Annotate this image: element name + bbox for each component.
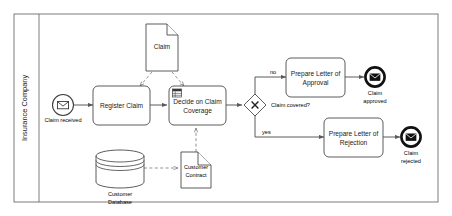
envelope-icon — [370, 74, 380, 81]
data-object-claim-label: Claim — [154, 43, 170, 50]
flow-label-yes: yes — [262, 129, 271, 135]
task-prepare-approval-label-line1: Prepare Letter of — [291, 70, 341, 78]
end-event-rejected-label-line2: rejected — [401, 158, 421, 164]
data-object-contract-label-line1: Customer — [184, 164, 208, 170]
task-register-claim-label: Register Claim — [100, 102, 144, 110]
task-decide-coverage-label-line2: Coverage — [183, 107, 212, 115]
task-prepare-approval-box — [286, 58, 345, 97]
end-event-claim-rejected[interactable] — [401, 127, 420, 146]
data-store-customer-database[interactable] — [96, 150, 144, 188]
task-prepare-rejection-label-line2: Rejection — [340, 139, 368, 147]
task-prepare-approval-label-line2: Approval — [302, 79, 329, 87]
bpmn-diagram-canvas: Insurance Company no yes Claim received … — [0, 0, 452, 216]
pool-label: Insurance Company — [20, 75, 29, 141]
end-event-approved-label-line2: approved — [363, 98, 386, 104]
task-prepare-rejection-label-line1: Prepare Letter of — [329, 130, 379, 138]
business-rule-icon — [173, 89, 182, 97]
task-prepare-approval[interactable]: Prepare Letter of Approval — [286, 58, 345, 97]
start-event-circle — [53, 95, 74, 116]
end-event-claim-approved[interactable] — [365, 67, 384, 86]
task-prepare-rejection-box — [324, 118, 383, 157]
task-prepare-rejection[interactable]: Prepare Letter of Rejection — [324, 118, 383, 157]
task-decide-coverage-label-line1: Decide on Claim — [173, 98, 222, 105]
start-event-claim-received[interactable] — [53, 95, 74, 116]
end-event-rejected-label-line1: Claim — [404, 150, 419, 156]
task-decide-coverage[interactable]: Decide on Claim Coverage — [169, 86, 226, 125]
bpmn-diagram: Insurance Company no yes Claim received … — [0, 0, 452, 216]
flow-label-no: no — [270, 69, 276, 75]
data-object-claim[interactable]: Claim — [146, 24, 178, 71]
envelope-icon — [406, 134, 416, 141]
end-event-approved-label-line1: Claim — [368, 90, 383, 96]
task-register-claim[interactable]: Register Claim — [93, 86, 150, 125]
gateway-label: Claim covered? — [271, 102, 310, 108]
data-store-label-line2: Database — [108, 199, 132, 205]
data-object-contract-label-line2: Contract — [185, 172, 207, 178]
data-store-label-line1: Customer — [108, 191, 132, 197]
start-event-label: Claim received — [45, 117, 82, 123]
